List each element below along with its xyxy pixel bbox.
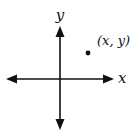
x-axis-left-arrow-icon [6, 75, 17, 84]
y-axis-down-arrow-icon [56, 119, 65, 130]
x-axis-right-arrow-icon [103, 75, 114, 84]
x-axis-label: x [118, 69, 127, 87]
y-axis-label: y [55, 6, 65, 24]
point-label: (x, y) [97, 33, 130, 48]
y-axis-up-arrow-icon [56, 26, 65, 37]
y-axis [56, 26, 65, 130]
coordinate-plane: y (x, y) x [0, 0, 132, 137]
plotted-point [86, 51, 91, 56]
